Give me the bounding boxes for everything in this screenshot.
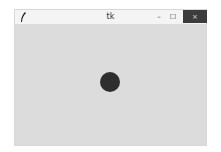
- tk-window: tk – ☐ ×: [14, 9, 207, 146]
- title-bar[interactable]: tk – ☐ ×: [15, 10, 206, 24]
- circle-shape: [100, 72, 120, 92]
- canvas[interactable]: [15, 24, 206, 145]
- minimize-button[interactable]: –: [153, 10, 165, 23]
- maximize-button[interactable]: ☐: [167, 10, 179, 23]
- close-button[interactable]: ×: [183, 10, 207, 23]
